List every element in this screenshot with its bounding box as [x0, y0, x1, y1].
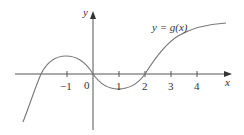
y-axis-arrow-icon: [90, 11, 96, 19]
x-axis-label: x: [224, 76, 230, 88]
curve-g: [23, 23, 226, 122]
tick-label-2: 2: [142, 80, 148, 92]
y-axis-label: y: [82, 6, 88, 18]
function-graph: −1 0 1 2 3 4 x y y = g(x): [0, 0, 244, 135]
tick-label-4: 4: [194, 80, 200, 92]
tick-label-3: 3: [168, 80, 174, 92]
curve-label: y = g(x): [151, 21, 188, 34]
tick-label-1: 1: [116, 80, 122, 92]
tick-label-neg1: −1: [60, 80, 72, 92]
tick-label-0: 0: [84, 79, 90, 91]
